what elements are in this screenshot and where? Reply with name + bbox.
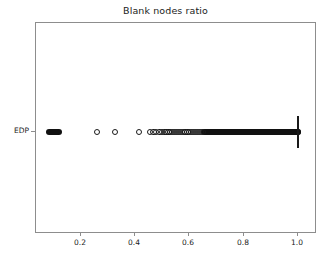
plot-area — [36, 23, 315, 232]
x-axis-tick-label: 1.0 — [282, 238, 312, 247]
flier-cluster-high — [201, 129, 301, 135]
flier-cluster-low — [46, 129, 61, 135]
x-axis-tick-mark — [188, 233, 189, 236]
x-axis-tick-label: 0.8 — [228, 238, 258, 247]
x-axis-tick-mark — [134, 233, 135, 236]
flier-marker — [200, 129, 206, 135]
boxplot-whisker-cap — [297, 116, 298, 148]
x-axis-tick-mark — [80, 233, 81, 236]
x-axis-tick-label: 0.4 — [119, 238, 149, 247]
flier-marker — [94, 129, 100, 135]
chart-figure: Blank nodes ratio EDP 0.20.40.60.81.0 — [0, 0, 331, 263]
x-axis-tick-label: 0.2 — [65, 238, 95, 247]
flier-marker — [136, 129, 142, 135]
x-axis-tick-mark — [243, 233, 244, 236]
x-axis-tick-mark — [297, 233, 298, 236]
plot-axes-frame — [35, 22, 316, 233]
x-axis-tick-label: 0.6 — [173, 238, 203, 247]
y-axis-tick-label-edp: EDP — [0, 126, 29, 135]
chart-title: Blank nodes ratio — [0, 5, 331, 16]
flier-marker — [112, 129, 118, 135]
